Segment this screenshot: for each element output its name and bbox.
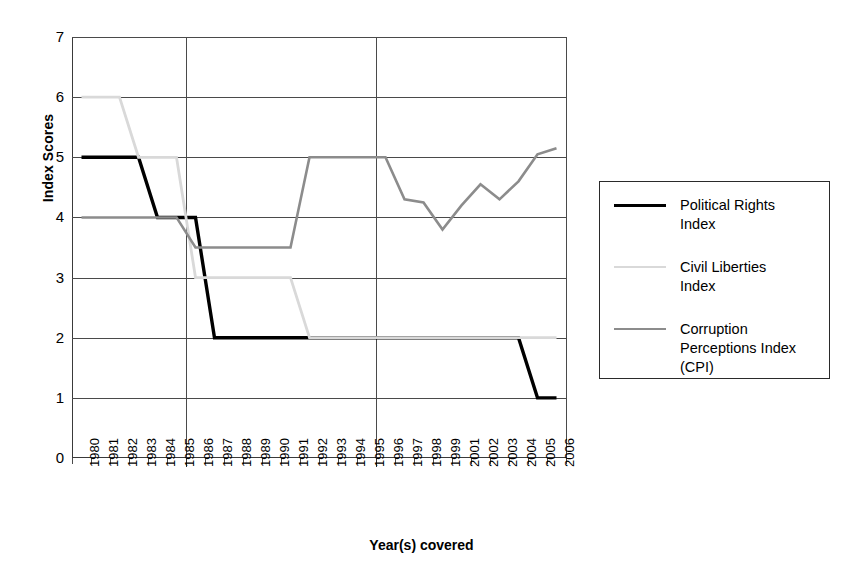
x-tick-label-1993: 1993	[335, 438, 348, 467]
x-tick-label-2001: 2001	[468, 438, 481, 467]
legend-label-2-line-0: Corruption	[680, 320, 796, 339]
legend-label-2-line-1: Perceptions Index	[680, 339, 796, 358]
plot-area	[72, 37, 566, 458]
x-tick-label-1986: 1986	[202, 438, 215, 467]
x-tick-label-1994: 1994	[354, 438, 367, 467]
y-tick-label-1: 1	[38, 390, 64, 405]
legend-label-0: Political RightsIndex	[680, 196, 775, 234]
x-tick-label-1992: 1992	[316, 438, 329, 467]
legend-label-0-line-1: Index	[680, 215, 775, 234]
x-tick-label-1990: 1990	[278, 438, 291, 467]
x-axis-title-text: Year(s) covered	[369, 537, 473, 553]
x-tick-label-1987: 1987	[221, 438, 234, 467]
x-tick-label-1995: 1995	[373, 438, 386, 467]
x-tick-label-1996: 1996	[392, 438, 405, 467]
y-tick-label-3: 3	[38, 270, 64, 285]
legend-label-0-line-0: Political Rights	[680, 196, 775, 215]
x-tick-label-1981: 1981	[107, 438, 120, 467]
x-tick-label-2006: 2006	[563, 438, 576, 467]
x-tick-label-1988: 1988	[240, 438, 253, 467]
y-tick-label-0: 0	[38, 450, 64, 465]
gridline-right-edge	[566, 37, 567, 458]
x-axis-title: Year(s) covered	[0, 537, 843, 553]
x-tick-label-1980: 1980	[88, 438, 101, 467]
x-tick-label-2003: 2003	[506, 438, 519, 467]
x-tick-label-1997: 1997	[411, 438, 424, 467]
x-tick-label-1985: 1985	[183, 438, 196, 467]
x-tick-label-1998: 1998	[430, 438, 443, 467]
x-tick-label-1984: 1984	[164, 438, 177, 467]
x-tick-label-2002: 2002	[487, 438, 500, 467]
series-line-0	[82, 157, 557, 398]
x-tick-label-1999: 1999	[449, 438, 462, 467]
x-tick-0	[72, 458, 73, 464]
legend-label-2-line-2: (CPI)	[680, 358, 796, 377]
y-tick-label-2: 2	[38, 330, 64, 345]
legend-item-1[interactable]: Civil LibertiesIndex	[614, 258, 819, 296]
x-tick-label-1983: 1983	[145, 438, 158, 467]
x-tick-label-2004: 2004	[525, 438, 538, 467]
x-tick-label-1991: 1991	[297, 438, 310, 467]
legend-label-1-line-1: Index	[680, 277, 766, 296]
legend: Political RightsIndexCivil LibertiesInde…	[599, 181, 830, 379]
legend-swatch-1	[614, 266, 666, 268]
y-tick-label-5: 5	[38, 149, 64, 164]
x-tick-label-1982: 1982	[126, 438, 139, 467]
chart-canvas: Index Scores 76543210 198019811982198319…	[0, 0, 843, 567]
x-tick-label-2005: 2005	[544, 438, 557, 467]
legend-label-2: CorruptionPerceptions Index(CPI)	[680, 320, 796, 377]
x-tick-label-1989: 1989	[259, 438, 272, 467]
y-tick-label-7: 7	[38, 29, 64, 44]
legend-item-2[interactable]: CorruptionPerceptions Index(CPI)	[614, 320, 819, 377]
legend-label-1-line-0: Civil Liberties	[680, 258, 766, 277]
y-tick-label-4: 4	[38, 209, 64, 224]
series-lines	[72, 37, 566, 458]
legend-item-0[interactable]: Political RightsIndex	[614, 196, 819, 234]
y-tick-label-6: 6	[38, 89, 64, 104]
legend-swatch-0	[614, 204, 666, 207]
legend-swatch-2	[614, 328, 666, 330]
legend-label-1: Civil LibertiesIndex	[680, 258, 766, 296]
